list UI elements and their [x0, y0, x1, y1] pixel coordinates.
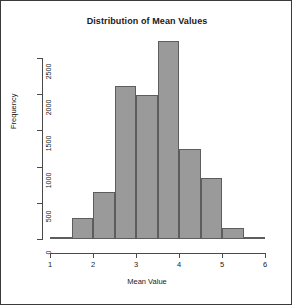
histogram-bar — [115, 86, 137, 239]
x-axis-title: Mean Value — [1, 277, 292, 286]
x-axis-tick-label: 3 — [126, 260, 146, 269]
x-axis-tick — [50, 253, 51, 258]
histogram-bar — [222, 228, 244, 239]
histogram-bar — [50, 237, 72, 239]
y-axis-tick-label: 1000 — [45, 165, 52, 195]
y-axis-tick — [37, 167, 42, 168]
x-axis-tick — [136, 253, 137, 258]
histogram-bar — [201, 178, 223, 239]
y-axis-line — [42, 58, 43, 240]
y-axis-tick-label: 1500 — [45, 129, 52, 159]
x-axis-tick-label: 1 — [40, 260, 60, 269]
y-axis-tick — [37, 94, 42, 95]
x-axis-tick-label: 6 — [255, 260, 275, 269]
histogram-bar — [93, 192, 115, 239]
x-axis-tick-label: 5 — [212, 260, 232, 269]
x-axis-tick — [265, 253, 266, 258]
y-axis-tick — [37, 203, 42, 204]
histogram-figure: Distribution of Mean Values 050010001500… — [0, 0, 292, 305]
x-axis-tick — [179, 253, 180, 258]
histogram-bar — [72, 218, 94, 239]
y-axis-tick — [37, 58, 42, 59]
y-axis-tick-label: 2500 — [45, 57, 52, 87]
x-axis-tick — [222, 253, 223, 258]
histogram-bar — [158, 41, 180, 239]
histogram-bar — [136, 95, 158, 239]
histogram-bar — [244, 237, 266, 239]
y-axis-title: Frequency — [9, 94, 18, 129]
y-axis-tick-label: 500 — [45, 201, 52, 231]
x-axis-tick-label: 4 — [169, 260, 189, 269]
y-axis-tick — [37, 130, 42, 131]
x-axis-tick — [93, 253, 94, 258]
x-axis-tick-label: 2 — [83, 260, 103, 269]
histogram-bar — [179, 149, 201, 240]
x-axis-line — [50, 253, 266, 254]
y-axis-tick-label: 2000 — [45, 93, 52, 123]
y-axis-tick — [37, 239, 42, 240]
